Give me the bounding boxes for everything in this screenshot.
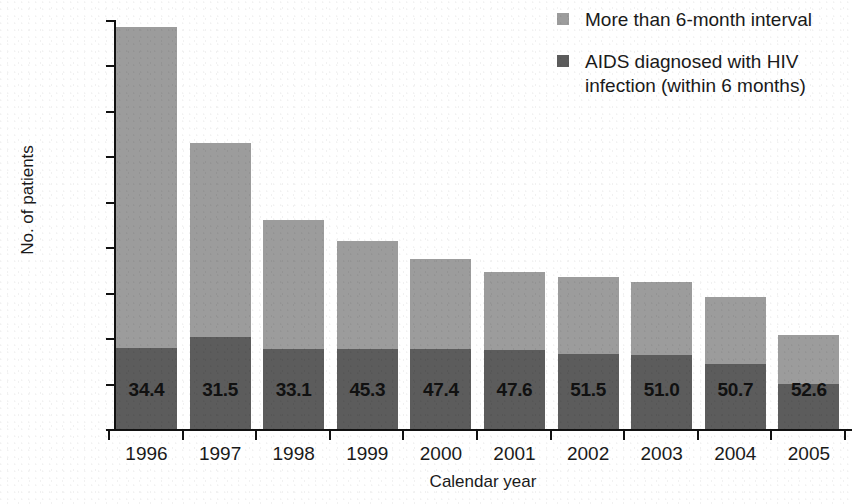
x-axis-tick-mark xyxy=(623,431,625,440)
y-axis-title: No. of patients xyxy=(18,110,38,290)
x-axis-tick-mark xyxy=(476,431,478,440)
bar-group[interactable]: 47.4 xyxy=(410,259,471,429)
bar-group[interactable]: 52.6 xyxy=(778,335,839,429)
y-axis-tick-mark xyxy=(106,338,115,340)
bar-segment-more-than-6-month[interactable] xyxy=(705,297,766,364)
legend-item[interactable]: AIDS diagnosed with HIV infection (withi… xyxy=(557,50,854,98)
y-axis-tick-mark xyxy=(106,202,115,204)
bar-group[interactable]: 45.3 xyxy=(337,241,398,429)
x-axis-tick-label: 2005 xyxy=(764,443,854,465)
bar-segment-more-than-6-month[interactable] xyxy=(410,259,471,349)
bar-chart-figure: No. of patients 050010001500200025003000… xyxy=(0,0,854,504)
x-axis-tick-mark xyxy=(550,431,552,440)
bar-value-label: 34.4 xyxy=(116,379,177,401)
x-axis-tick-mark xyxy=(108,431,110,440)
bar-value-label: 47.6 xyxy=(484,379,545,401)
x-axis-tick-mark xyxy=(255,431,257,440)
bar-group[interactable]: 31.5 xyxy=(190,143,251,429)
bar-segment-more-than-6-month[interactable] xyxy=(484,272,545,350)
y-axis-tick-mark xyxy=(106,247,115,249)
bar-value-label: 52.6 xyxy=(778,379,839,401)
bar-segment-more-than-6-month[interactable] xyxy=(778,335,839,385)
y-axis-tick-mark xyxy=(106,65,115,67)
bar-segment-more-than-6-month[interactable] xyxy=(337,241,398,349)
bar-group[interactable]: 51.0 xyxy=(631,282,692,429)
x-axis-tick-mark xyxy=(402,431,404,440)
x-axis-title: Calendar year xyxy=(114,472,852,492)
legend-item-label: AIDS diagnosed with HIV infection (withi… xyxy=(585,50,854,98)
x-axis-tick-mark xyxy=(182,431,184,440)
bar-group[interactable]: 34.4 xyxy=(116,27,177,429)
legend-swatch-icon xyxy=(557,13,569,25)
bar-group[interactable]: 51.5 xyxy=(558,277,619,429)
x-axis-tick-mark xyxy=(329,431,331,440)
y-axis-tick-mark xyxy=(106,156,115,158)
bar-value-label: 47.4 xyxy=(410,379,471,401)
legend-swatch-icon xyxy=(557,55,569,67)
x-axis-tick-mark xyxy=(844,431,846,440)
y-axis-tick-mark xyxy=(106,111,115,113)
x-axis-line xyxy=(114,429,852,431)
y-axis-tick-mark xyxy=(106,20,115,22)
bar-value-label: 45.3 xyxy=(337,379,398,401)
bar-segment-more-than-6-month[interactable] xyxy=(558,277,619,354)
bar-segment-more-than-6-month[interactable] xyxy=(116,27,177,348)
y-axis-tick-mark xyxy=(106,384,115,386)
legend-item-label: More than 6-month interval xyxy=(585,8,854,32)
legend-item[interactable]: More than 6-month interval xyxy=(557,8,854,32)
bar-segment-more-than-6-month[interactable] xyxy=(190,143,251,338)
bar-group[interactable]: 33.1 xyxy=(263,220,324,429)
bar-value-label: 33.1 xyxy=(263,379,324,401)
bar-segment-more-than-6-month[interactable] xyxy=(631,282,692,356)
bar-segment-more-than-6-month[interactable] xyxy=(263,220,324,349)
bar-value-label: 51.5 xyxy=(558,379,619,401)
bar-group[interactable]: 50.7 xyxy=(705,297,766,429)
y-axis-tick-mark xyxy=(106,293,115,295)
bar-group[interactable]: 47.6 xyxy=(484,272,545,429)
bar-value-label: 31.5 xyxy=(190,379,251,401)
x-axis-tick-mark xyxy=(770,431,772,440)
x-axis-tick-mark xyxy=(697,431,699,440)
bar-value-label: 50.7 xyxy=(705,379,766,401)
chart-legend: More than 6-month intervalAIDS diagnosed… xyxy=(557,8,854,116)
bar-value-label: 51.0 xyxy=(631,379,692,401)
